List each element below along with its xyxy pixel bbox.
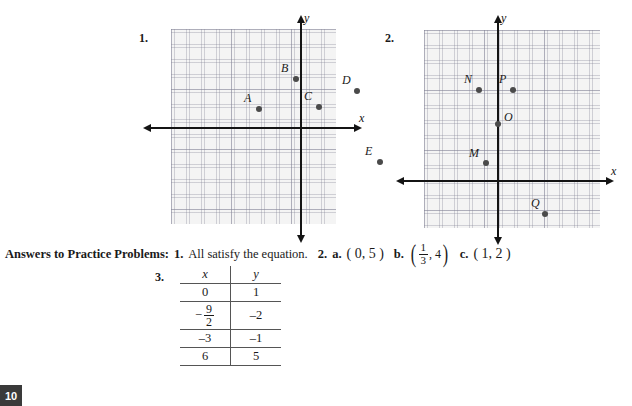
page-number-badge: 10 bbox=[0, 385, 22, 406]
point-d bbox=[354, 88, 360, 94]
point-label-a: A bbox=[244, 91, 251, 106]
point-label-d: D bbox=[342, 73, 351, 88]
fraction-numerator: 9 bbox=[204, 303, 214, 316]
fraction-denominator: 2 bbox=[204, 316, 214, 328]
table-row: − 9 2 –2 bbox=[180, 302, 281, 330]
point-label-p: P bbox=[499, 72, 506, 87]
cell-x-0: 0 bbox=[180, 284, 231, 302]
answer-1-number: 1. bbox=[174, 247, 183, 262]
point-label-m: M bbox=[469, 146, 479, 161]
point-n bbox=[476, 87, 482, 93]
answer-2b-second-coordinate: , 4 bbox=[429, 247, 441, 262]
coordinate-plane-2: x y M N O P Q bbox=[424, 30, 600, 228]
answers-line: Answers to Practice Problems: 1. All sat… bbox=[5, 243, 627, 265]
x-axis-label-2: x bbox=[611, 164, 616, 179]
close-paren-icon: ) bbox=[443, 244, 448, 265]
fraction-numerator: 1 bbox=[419, 242, 429, 254]
xy-value-table: x y 0 1 − 9 2 –2 bbox=[180, 266, 281, 366]
y-axis-1 bbox=[300, 23, 302, 235]
cell-x-1: − 9 2 bbox=[180, 302, 231, 330]
point-label-e: E bbox=[365, 144, 372, 159]
answer-2a-value: ( 0, 5 ) bbox=[347, 246, 384, 262]
header-y: y bbox=[231, 266, 282, 284]
grid-background-2 bbox=[424, 30, 600, 228]
answer-2a-label: a. bbox=[332, 247, 341, 262]
cell-y-2: –1 bbox=[231, 330, 282, 348]
answer-2c-value: ( 1, 2 ) bbox=[473, 246, 510, 262]
answer-2c-label: c. bbox=[460, 247, 469, 262]
answer-2b-value: ( 1 3 , 4 ) bbox=[409, 242, 450, 265]
fraction-denominator: 3 bbox=[419, 255, 429, 266]
table-row: 0 1 bbox=[180, 284, 281, 302]
open-paren-icon: ( bbox=[411, 244, 416, 265]
cell-y-3: 5 bbox=[231, 348, 282, 366]
problem-3-table-wrapper: 3. x y 0 1 − 9 2 bbox=[155, 266, 281, 366]
point-e bbox=[377, 159, 383, 165]
y-axis-2 bbox=[497, 23, 499, 237]
cell-y-1: –2 bbox=[231, 302, 282, 330]
point-q bbox=[542, 211, 548, 217]
x-axis-left-arrow-2 bbox=[396, 177, 404, 185]
answer-1-text: All satisfy the equation. bbox=[188, 247, 307, 262]
answer-2-number: 2. bbox=[318, 247, 327, 262]
problem-number-2: 2. bbox=[385, 31, 394, 46]
point-label-b: B bbox=[281, 61, 288, 76]
x-axis-2 bbox=[404, 180, 606, 182]
point-c bbox=[316, 104, 322, 110]
problem-number-3: 3. bbox=[155, 270, 164, 285]
y-axis-label-2: y bbox=[501, 11, 506, 26]
cell-y-0: 1 bbox=[231, 284, 282, 302]
point-label-o: O bbox=[504, 110, 513, 125]
point-label-n: N bbox=[464, 72, 472, 87]
point-label-c: C bbox=[304, 89, 312, 104]
point-p bbox=[510, 87, 516, 93]
point-a bbox=[256, 106, 262, 112]
point-b bbox=[293, 76, 299, 82]
x-axis-1 bbox=[151, 127, 354, 129]
x-axis-label-1: x bbox=[359, 111, 364, 126]
table-row: 6 5 bbox=[180, 348, 281, 366]
cell-x-2: –3 bbox=[180, 330, 231, 348]
header-x: x bbox=[180, 266, 231, 284]
point-label-q: Q bbox=[531, 196, 540, 211]
fraction-nine-halves: 9 2 bbox=[204, 303, 214, 328]
negative-sign: − bbox=[195, 308, 202, 323]
cell-x-3: 6 bbox=[180, 348, 231, 366]
table-row: –3 –1 bbox=[180, 330, 281, 348]
x-axis-left-arrow-1 bbox=[143, 124, 151, 132]
table-header-row: x y bbox=[180, 266, 281, 284]
y-axis-label-1: y bbox=[304, 11, 309, 26]
coordinate-plane-1: x y A B C D E bbox=[171, 29, 336, 224]
y-axis-down-arrow-1 bbox=[297, 235, 305, 243]
problem-number-1: 1. bbox=[139, 31, 148, 46]
answers-heading: Answers to Practice Problems: bbox=[5, 247, 169, 262]
point-m bbox=[483, 160, 489, 166]
fraction-one-third: 1 3 bbox=[419, 242, 429, 265]
point-o bbox=[495, 121, 501, 127]
answer-2b-label: b. bbox=[394, 247, 404, 262]
